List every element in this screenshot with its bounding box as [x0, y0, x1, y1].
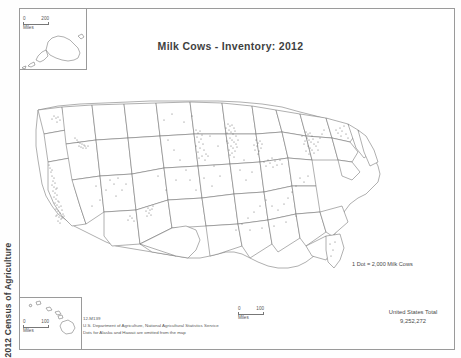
us-total-value: 9,252,272 [370, 317, 456, 326]
scalebar-alaska-min: 0 [23, 17, 26, 22]
scalebar-main-min: 0 [238, 307, 241, 312]
scalebar-main-unit: Miles [238, 316, 264, 321]
scalebar-main: 0 100 Miles [238, 307, 264, 321]
agency-line: U.S. Department of Agriculture, National… [83, 323, 219, 330]
scalebar-hawaii-min: 0 [23, 320, 26, 325]
spine-caption-label: 2012 Census of Agriculture [3, 243, 13, 358]
us-total-block: United States Total 9,252,272 [370, 308, 456, 325]
scalebar-alaska-max: 200 [41, 17, 49, 22]
scalebar-alaska: 0 200 Miles [23, 17, 49, 31]
us-total-label: United States Total [370, 308, 456, 317]
scalebar-hawaii-unit: Miles [23, 329, 49, 334]
map-id: 12-M139 [83, 316, 219, 323]
scalebar-main-max: 100 [256, 307, 264, 312]
credits-block: 12-M139 U.S. Department of Agriculture, … [83, 316, 219, 336]
scalebar-alaska-unit: Miles [23, 26, 49, 31]
spine-caption: 2012 Census of Agriculture [1, 244, 15, 356]
scalebar-hawaii: 0 100 Miles [23, 320, 49, 334]
map-page: 2012 Census of Agriculture Milk Cows - I… [0, 0, 461, 358]
scalebar-hawaii-max: 100 [41, 320, 49, 325]
omission-note: Dots for Alaska and Hawaii are omitted f… [83, 330, 219, 337]
legend-dot-value: 1 Dot = 2,000 Milk Cows [352, 261, 413, 267]
